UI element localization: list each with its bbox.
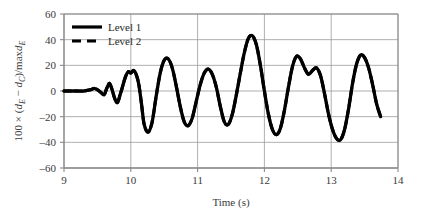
x-tick-label: 10 bbox=[125, 174, 137, 186]
y-tick-label: –20 bbox=[39, 111, 57, 123]
legend-label-2: Level 2 bbox=[108, 35, 141, 47]
y-tick-label: 20 bbox=[45, 59, 57, 71]
y-tick-label: 40 bbox=[45, 34, 57, 46]
x-tick-label: 14 bbox=[393, 174, 405, 186]
y-tick-label: –40 bbox=[39, 136, 57, 148]
y-tick-label: 0 bbox=[51, 85, 57, 97]
line-chart: 6040200–20–40–60 91011121314 Level 1Leve… bbox=[0, 0, 421, 215]
y-tick-label: –60 bbox=[39, 162, 57, 174]
x-tick-label: 9 bbox=[61, 174, 67, 186]
legend-label-1: Level 1 bbox=[108, 21, 141, 33]
x-tick-label: 12 bbox=[259, 174, 270, 186]
x-tick-label: 13 bbox=[326, 174, 338, 186]
figure-container: 6040200–20–40–60 91011121314 Level 1Leve… bbox=[0, 0, 421, 215]
x-tick-label: 11 bbox=[192, 174, 203, 186]
x-axis-title: Time (s) bbox=[212, 196, 250, 209]
y-tick-label: 60 bbox=[45, 8, 57, 20]
